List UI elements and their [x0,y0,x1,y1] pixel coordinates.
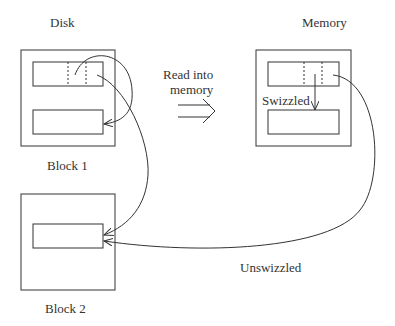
block2-label: Block 2 [45,301,86,316]
read-into-label-line2: memory [170,82,214,97]
disk-inter-block-arrow [97,75,148,235]
disk-block-1 [21,50,115,146]
disk-block2-target-field [33,224,103,248]
unswizzled-label: Unswizzled [240,260,302,275]
disk-label: Disk [50,15,75,30]
double-arrow-icon [178,99,215,123]
swizzled-label: Swizzled [262,93,310,108]
diagram-canvas: Disk Memory Block 1 Block 2 Read into me… [0,0,395,326]
memory-label: Memory [302,15,347,30]
swizzling-diagram: Disk Memory Block 1 Block 2 Read into me… [0,0,395,326]
disk-intra-block-arrow [75,56,132,124]
disk-block-2 [21,194,115,290]
memory-target-field [268,110,339,134]
unswizzled-arrow [104,75,375,248]
disk-block1-target-field [33,110,103,134]
read-into-label-line1: Read into [163,67,213,82]
block1-label: Block 1 [47,158,88,173]
